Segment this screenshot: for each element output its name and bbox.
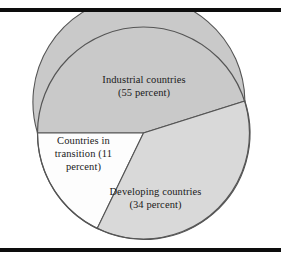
figure-canvas: Industrial countries (55 percent) Countr… <box>0 0 281 258</box>
pie-chart-svg <box>0 12 281 248</box>
bottom-horizontal-rule <box>0 248 281 252</box>
pie-chart-area: Industrial countries (55 percent) Countr… <box>0 12 281 248</box>
